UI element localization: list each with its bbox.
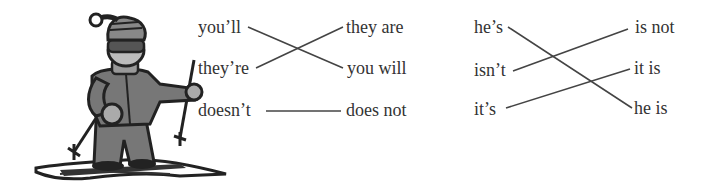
contraction-word: they’re <box>198 58 249 78</box>
expanded-word: it is <box>634 58 661 78</box>
contraction-word: you’ll <box>198 17 241 37</box>
expanded-word: they are <box>346 17 403 37</box>
match-line-its-it-is <box>506 69 630 108</box>
contraction-word: he’s <box>474 17 503 37</box>
match-line-hes-he-is <box>508 27 632 108</box>
contraction-word: isn’t <box>474 60 506 80</box>
expanded-word: is not <box>635 17 675 37</box>
contraction-word: it’s <box>474 99 496 119</box>
expanded-word: you will <box>347 58 407 78</box>
expanded-word: he is <box>634 98 668 118</box>
matching-exercise: you’ll they’re doesn’t they are you will… <box>0 0 710 194</box>
contraction-word: doesn’t <box>198 100 251 120</box>
match-line-isnt-is-not <box>513 29 628 71</box>
expanded-word: does not <box>346 100 407 120</box>
